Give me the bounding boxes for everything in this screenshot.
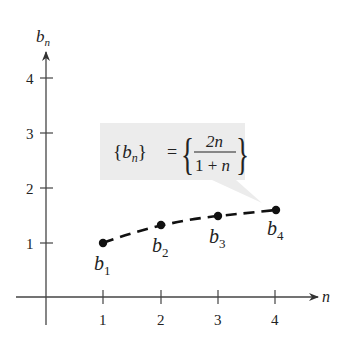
point-label-b3: b3	[209, 225, 226, 251]
point-label-b1: b1	[94, 252, 111, 278]
x-tick-label: 1	[99, 312, 107, 328]
dashed-connector	[103, 210, 276, 243]
y-tick-label: 2	[26, 181, 34, 197]
sequence-plot: 4 3 2 1 1 2 3 4 bn n b1 b2 b3 b4 {bn} = …	[0, 0, 346, 344]
y-tick-label: 1	[26, 236, 34, 252]
formula-brace-open: {	[181, 130, 194, 179]
point-label-b2: b2	[152, 234, 169, 260]
point-b3	[214, 212, 222, 220]
y-ticks: 4 3 2 1	[26, 71, 53, 252]
point-label-b4: b4	[267, 217, 284, 243]
point-b4	[272, 206, 280, 214]
y-tick-label: 4	[26, 71, 34, 87]
y-tick-label: 3	[26, 126, 34, 142]
y-axis-label: bn	[36, 27, 51, 48]
formula-numerator: 2n	[206, 132, 223, 151]
point-b2	[157, 221, 165, 229]
x-tick-label: 2	[157, 312, 165, 328]
x-axis-label: n	[322, 288, 330, 305]
x-tick-label: 4	[271, 312, 279, 328]
formula-lhs: {bn}	[113, 141, 147, 165]
formula-brace-close: }	[236, 130, 249, 179]
x-tick-label: 3	[214, 312, 222, 328]
formula-equals: =	[167, 142, 177, 162]
formula-denominator: 1 + n	[195, 156, 230, 175]
point-b1	[99, 239, 107, 247]
x-ticks: 1 2 3 4	[99, 290, 279, 328]
